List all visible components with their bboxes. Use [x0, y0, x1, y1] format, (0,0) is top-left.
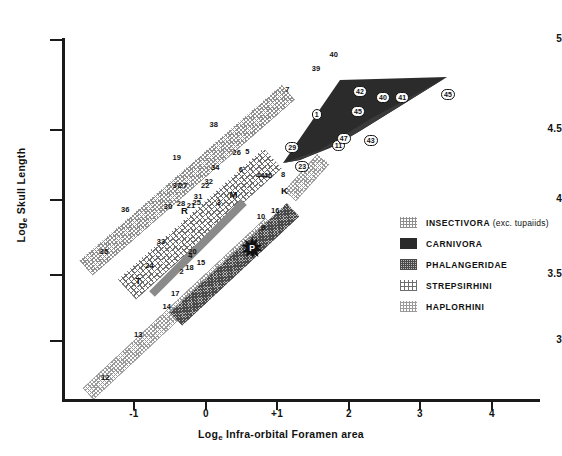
legend-label-insectivora: INSECTIVORA (exc. tupaiids) [426, 218, 549, 228]
legend-item-strepsirhini: STREPSIRHINI [400, 277, 549, 294]
point-label-18: 18 [185, 264, 194, 272]
y-tick-label-3: 3 [528, 334, 562, 345]
chart-figure: 5 4.5 4 3.5 3 -1 0 +1 2 3 4 Loge Skull L… [0, 0, 562, 456]
y-tick-label-4: 4 [528, 193, 562, 204]
point-label-7: 7 [285, 86, 289, 94]
point-label-30: 30 [164, 203, 173, 211]
x-tick-label-4: 4 [477, 408, 507, 419]
x-axis-title-rest: Infra-orbital Foramen area [223, 428, 364, 440]
legend-swatch-phalangeridae [400, 259, 417, 270]
legend-item-phalangeridae: PHALANGERIDAE [400, 256, 549, 273]
point-label-8: 8 [281, 171, 285, 179]
x-tick-label-+1: +1 [262, 408, 292, 419]
point-label-9: 9 [261, 224, 265, 232]
point-label-29: 29 [285, 142, 299, 153]
legend-item-carnivora: CARNIVORA [400, 235, 549, 252]
point-label-31: 31 [194, 193, 203, 201]
point-label-23: 23 [295, 161, 309, 172]
point-label-1: 1 [312, 109, 322, 120]
point-label-40: 40 [376, 92, 390, 103]
point-label-10: 10 [257, 213, 266, 221]
point-label-40: 40 [330, 51, 339, 59]
y-tick-4 [50, 199, 62, 201]
point-label-24: 24 [145, 262, 154, 270]
legend-label-phalangeridae: PHALANGERIDAE [426, 260, 507, 270]
legend-swatch-carnivora [400, 238, 417, 249]
y-tick-3 [50, 340, 62, 342]
x-axis-title-log: Log [198, 428, 218, 440]
y-axis-title-log: Log [15, 222, 27, 242]
point-label-33: 33 [157, 238, 166, 246]
x-tick-label-0: 0 [191, 408, 221, 419]
legend-label-insectivora-suffix: (exc. tupaiids) [493, 218, 549, 228]
x-axis-title: Loge Infra-orbital Foramen area [0, 428, 562, 442]
point-label-16: 16 [271, 207, 280, 215]
x-tick-label-3: 3 [405, 408, 435, 419]
point-label-14: 14 [162, 303, 171, 311]
y-tick-3.5 [50, 274, 62, 276]
point-label-6: 6 [239, 166, 243, 174]
point-label-46: 46 [264, 172, 273, 180]
legend-label-carnivora: CARNIVORA [426, 239, 482, 249]
point-label-15: 15 [197, 259, 206, 267]
point-label-5: 5 [245, 148, 249, 156]
point-label-13: 13 [134, 331, 143, 339]
point-label-17: 17 [171, 290, 180, 298]
legend-label-strepsirhini: STREPSIRHINI [426, 281, 492, 291]
point-label-47: 47 [337, 133, 351, 144]
legend-label-haplorhini: HAPLORHINI [426, 302, 484, 312]
legend-swatch-strepsirhini [400, 280, 417, 291]
y-tick-label-5: 5 [528, 33, 562, 44]
point-label-T: T [135, 276, 141, 286]
y-tick-label-4.5: 4.5 [528, 123, 562, 134]
point-label-35: 35 [100, 248, 109, 256]
point-label-3: 3 [217, 199, 221, 207]
legend-swatch-haplorhini [400, 301, 417, 312]
y-tick-4.5 [50, 129, 62, 131]
point-label-M: M [230, 190, 238, 200]
x-tick-label--1: -1 [119, 408, 149, 419]
point-label-19: 19 [172, 154, 181, 162]
y-axis-title-rest: Skull Length [15, 148, 27, 218]
y-axis-title-sub: e [20, 217, 29, 222]
point-label-39: 39 [312, 65, 321, 73]
point-label-41: 41 [395, 92, 409, 103]
y-axis [62, 38, 65, 402]
y-tick-5 [50, 39, 62, 41]
point-label-12: 12 [101, 374, 110, 382]
point-label-26: 26 [232, 149, 241, 157]
legend: INSECTIVORA (exc. tupaiids) CARNIVORA PH… [400, 214, 549, 319]
point-label-45: 45 [351, 106, 365, 117]
point-label-34: 34 [211, 164, 220, 172]
point-label-36: 36 [121, 206, 130, 214]
band-haplorhini-tail [284, 153, 329, 201]
point-label-43: 43 [364, 135, 378, 146]
point-label-K: K [281, 186, 288, 196]
point-label-27: 27 [179, 182, 188, 190]
y-axis-title: Loge Skull Length [15, 135, 29, 255]
point-label-20: 20 [188, 248, 197, 256]
legend-item-insectivora: INSECTIVORA (exc. tupaiids) [400, 214, 549, 231]
point-label-42: 42 [353, 86, 367, 97]
point-label-38: 38 [210, 121, 219, 129]
special-marker-star: P [241, 237, 263, 259]
point-label-45: 45 [441, 89, 455, 100]
point-label-2: 2 [180, 268, 184, 276]
legend-label-insectivora-main: INSECTIVORA [426, 218, 490, 228]
legend-item-haplorhini: HAPLORHINI [400, 298, 549, 315]
star-marker-label: P [241, 237, 263, 259]
legend-swatch-insectivora [400, 217, 417, 228]
point-label-32: 32 [205, 178, 214, 186]
x-tick-label-2: 2 [334, 408, 364, 419]
